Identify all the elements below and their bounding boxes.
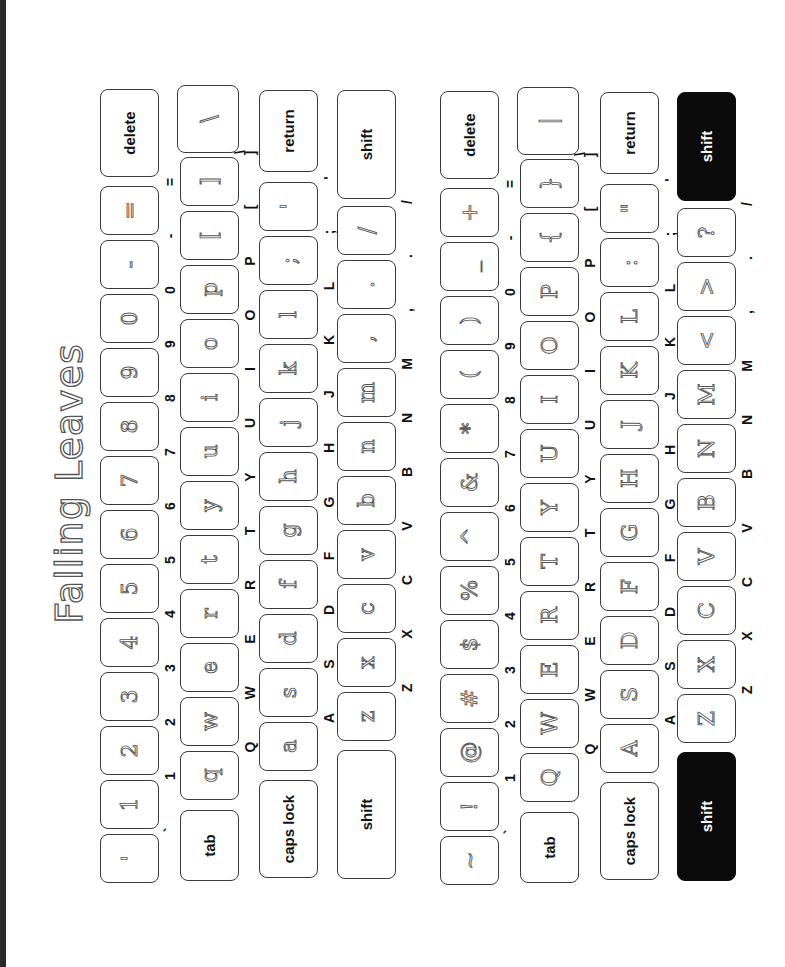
key-1-row3-7[interactable]: K: [600, 346, 659, 395]
key-1-row3-8[interactable]: L: [600, 292, 659, 341]
key-1-row4-2[interactable]: C: [677, 586, 736, 635]
key-1-row3-4[interactable]: G: [600, 508, 659, 557]
key-0-row3-10[interactable]: ': [259, 182, 318, 231]
right-shift-key[interactable]: shift: [677, 92, 736, 201]
key-1-row2-0[interactable]: Q: [520, 753, 579, 802]
key-0-row2-5[interactable]: y: [180, 481, 239, 530]
key-0-row1-8[interactable]: 8: [100, 402, 159, 451]
key-0-row1-7[interactable]: 7: [100, 456, 159, 505]
key-0-row2-11[interactable]: ]: [180, 157, 239, 206]
key-0-row3-3[interactable]: f: [259, 560, 318, 609]
tab-key[interactable]: tab: [180, 810, 239, 881]
key-1-row3-6[interactable]: J: [600, 400, 659, 449]
key-0-row1-5[interactable]: 5: [100, 564, 159, 613]
key-0-row3-8[interactable]: l: [259, 290, 318, 339]
key-0-row4-6[interactable]: m: [337, 368, 396, 417]
key-1-row1-11[interactable]: _: [440, 242, 499, 291]
key-0-row3-9[interactable]: ;: [259, 236, 318, 285]
key-0-row4-9[interactable]: /: [337, 206, 396, 255]
key-1-row2-5[interactable]: Y: [520, 483, 579, 532]
key-1-row4-3[interactable]: V: [677, 532, 736, 581]
key-1-row4-4[interactable]: B: [677, 478, 736, 527]
key-0-row2-10[interactable]: [: [180, 211, 239, 260]
key-1-row2-7[interactable]: I: [520, 375, 579, 424]
key-1-row1-3[interactable]: #: [440, 674, 499, 723]
key-1-row1-2[interactable]: @: [440, 728, 499, 777]
key-0-row1-1[interactable]: 1: [100, 780, 159, 829]
return-key[interactable]: return: [600, 92, 659, 174]
key-1-row1-12[interactable]: +: [440, 188, 499, 237]
key-0-row4-8[interactable]: .: [337, 260, 396, 309]
key-1-row2-10[interactable]: {: [520, 213, 579, 262]
key-0-row3-2[interactable]: d: [259, 614, 318, 663]
key-1-row3-0[interactable]: A: [600, 724, 659, 773]
key-1-row1-10[interactable]: ): [440, 296, 499, 345]
key-0-row4-4[interactable]: b: [337, 476, 396, 525]
key-0-row1-3[interactable]: 3: [100, 672, 159, 721]
key-0-row3-4[interactable]: g: [259, 506, 318, 555]
key-1-row3-10[interactable]: ": [600, 184, 659, 233]
key-1-row4-5[interactable]: N: [677, 424, 736, 473]
delete-key[interactable]: delete: [440, 91, 499, 179]
key-1-row4-7[interactable]: <: [677, 316, 736, 365]
key-1-row1-9[interactable]: (: [440, 350, 499, 399]
key-1-row4-6[interactable]: M: [677, 370, 736, 419]
key-0-row1-6[interactable]: 6: [100, 510, 159, 559]
key-0-row3-6[interactable]: j: [259, 398, 318, 447]
tab-key[interactable]: tab: [520, 812, 579, 883]
key-0-row2-8[interactable]: o: [180, 319, 239, 368]
caps-lock-key[interactable]: caps lock: [600, 782, 659, 880]
key-0-row2-4[interactable]: t: [180, 535, 239, 584]
key-0-row3-1[interactable]: s: [259, 668, 318, 717]
key-0-row4-1[interactable]: x: [337, 638, 396, 687]
key-1-row2-4[interactable]: T: [520, 537, 579, 586]
key-1-row1-8[interactable]: *: [440, 404, 499, 453]
key-1-row3-2[interactable]: D: [600, 616, 659, 665]
key-0-row2-7[interactable]: i: [180, 373, 239, 422]
right-shift-key[interactable]: shift: [337, 90, 396, 199]
left-shift-key[interactable]: shift: [677, 752, 736, 881]
key-1-row1-6[interactable]: ^: [440, 512, 499, 561]
key-1-row4-1[interactable]: X: [677, 640, 736, 689]
key-0-row1-0[interactable]: ': [100, 834, 159, 883]
key-1-row2-8[interactable]: O: [520, 321, 579, 370]
key-0-row3-0[interactable]: a: [259, 722, 318, 771]
key-0-row2-2[interactable]: e: [180, 643, 239, 692]
key-1-row1-7[interactable]: &: [440, 458, 499, 507]
key-0-row4-2[interactable]: c: [337, 584, 396, 633]
key-1-row2-2[interactable]: E: [520, 645, 579, 694]
key-0-row4-7[interactable]: ,: [337, 314, 396, 363]
key-0-row2-0[interactable]: q: [180, 751, 239, 800]
key-1-row2-9[interactable]: P: [520, 267, 579, 316]
key-0-row1-10[interactable]: 0: [100, 294, 159, 343]
key-0-row2-6[interactable]: u: [180, 427, 239, 476]
delete-key[interactable]: delete: [100, 89, 159, 177]
backslash-key[interactable]: \: [177, 85, 239, 153]
key-1-row3-5[interactable]: H: [600, 454, 659, 503]
caps-lock-key[interactable]: caps lock: [259, 780, 318, 878]
key-0-row1-2[interactable]: 2: [100, 726, 159, 775]
return-key[interactable]: return: [259, 90, 318, 172]
key-1-row1-5[interactable]: %: [440, 566, 499, 615]
key-1-row2-3[interactable]: R: [520, 591, 579, 640]
key-0-row1-12[interactable]: =: [100, 186, 159, 235]
key-0-row1-9[interactable]: 9: [100, 348, 159, 397]
key-0-row4-5[interactable]: n: [337, 422, 396, 471]
key-1-row4-0[interactable]: Z: [677, 694, 736, 743]
key-0-row2-3[interactable]: r: [180, 589, 239, 638]
key-1-row1-4[interactable]: $: [440, 620, 499, 669]
key-1-row2-11[interactable]: }: [520, 159, 579, 208]
key-0-row1-11[interactable]: -: [100, 240, 159, 289]
key-1-row1-0[interactable]: ~: [440, 836, 499, 885]
key-1-row1-1[interactable]: !: [440, 782, 499, 831]
key-1-row3-1[interactable]: S: [600, 670, 659, 719]
key-0-row2-9[interactable]: p: [180, 265, 239, 314]
key-0-row3-5[interactable]: h: [259, 452, 318, 501]
key-1-row4-9[interactable]: ?: [677, 208, 736, 257]
key-1-row3-9[interactable]: :: [600, 238, 659, 287]
key-1-row2-1[interactable]: W: [520, 699, 579, 748]
key-0-row4-0[interactable]: z: [337, 692, 396, 741]
key-0-row1-4[interactable]: 4: [100, 618, 159, 667]
backslash-key[interactable]: |: [517, 87, 579, 155]
key-0-row2-1[interactable]: w: [180, 697, 239, 746]
